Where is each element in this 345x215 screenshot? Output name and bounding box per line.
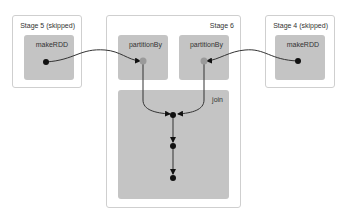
rdd-label: partitionBy [190, 41, 223, 48]
rdd-partitionBy-left[interactable]: partitionBy [118, 35, 168, 80]
stage-4-skipped[interactable]: Stage 4 (skipped) makeRDD [265, 15, 335, 88]
rdd-label: makeRDD [36, 41, 68, 48]
stage-5-skipped[interactable]: Stage 5 (skipped) makeRDD [12, 15, 82, 88]
stage-6[interactable]: Stage 6 partitionBy partitionBy join [106, 15, 241, 208]
stage-label: Stage 6 [210, 22, 234, 29]
rdd-label: join [212, 96, 223, 103]
rdd-join[interactable]: join [118, 90, 229, 199]
stage-label: Stage 4 (skipped) [273, 22, 328, 29]
rdd-label: partitionBy [129, 41, 162, 48]
rdd-makeRDD[interactable]: makeRDD [275, 35, 325, 80]
rdd-partitionBy-right[interactable]: partitionBy [179, 35, 229, 80]
rdd-makeRDD[interactable]: makeRDD [24, 35, 74, 80]
stage-label: Stage 5 (skipped) [20, 22, 75, 29]
rdd-label: makeRDD [287, 41, 319, 48]
